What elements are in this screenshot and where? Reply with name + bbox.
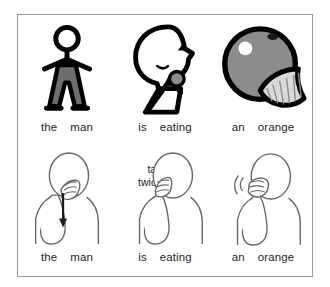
- caption-word: man: [70, 121, 93, 133]
- caption-row-top: the man is eating an orange: [18, 121, 312, 133]
- caption-word: an: [232, 251, 245, 263]
- caption-word: orange: [258, 121, 294, 133]
- caption-cell: the man: [18, 251, 116, 263]
- eating-pictogram: [116, 19, 214, 119]
- caption-word: the: [41, 251, 57, 263]
- caption-word: eating: [160, 251, 192, 263]
- pictogram-row: [18, 19, 312, 119]
- man-pictogram: [18, 19, 116, 119]
- sign-is-eating: tap twice: [116, 149, 214, 249]
- orange-pictogram: [214, 19, 312, 119]
- caption-cell: the man: [18, 121, 116, 133]
- caption-cell: an orange: [214, 251, 312, 263]
- sign-row: tap twice: [18, 149, 312, 249]
- caption-cell: is eating: [116, 121, 214, 133]
- sign-is-eating-icon: [116, 149, 214, 249]
- sign-an-orange: [214, 149, 312, 249]
- caption-word: orange: [258, 251, 294, 263]
- caption-word: an: [232, 121, 245, 133]
- caption-word: eating: [160, 121, 192, 133]
- sign-the-man-icon: [18, 149, 116, 249]
- orange-fruit-icon: [214, 19, 312, 119]
- sign-the-man: [18, 149, 116, 249]
- motion-lines-icon: [235, 175, 244, 194]
- man-figure-icon: [18, 19, 116, 119]
- sign-an-orange-icon: [214, 149, 312, 249]
- caption-cell: is eating: [116, 251, 214, 263]
- caption-row-bottom: the man is eating an orange: [18, 251, 312, 263]
- caption-word: man: [70, 251, 93, 263]
- caption-cell: an orange: [214, 121, 312, 133]
- eating-figure-icon: [116, 19, 214, 119]
- caption-word: the: [41, 121, 57, 133]
- figure-frame: the man is eating an orange: [17, 14, 313, 277]
- caption-word: is: [138, 251, 147, 263]
- caption-word: is: [138, 121, 147, 133]
